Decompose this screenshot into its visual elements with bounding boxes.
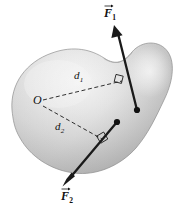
moment-arm-label-d2: d2 [55,121,64,132]
torque-diagram-figure: O d1 d2 F 1 F 2 [0,0,178,217]
force-label-f1: F 1 [104,7,116,19]
f1-arrowhead [111,25,122,38]
force-label-f2: F 2 [61,190,73,202]
f1-application-point [134,107,140,113]
f2-application-point [114,119,120,125]
body-rim-shade [0,0,178,217]
f2-letter-group: F [61,190,69,202]
pivot-label-o: O [33,94,42,106]
moment-arm-label-d1: d1 [74,70,83,81]
figure-canvas [0,0,178,217]
f2-arrowhead [63,173,76,187]
f1-letter-group: F [104,7,112,19]
rigid-body-shape [0,0,178,217]
